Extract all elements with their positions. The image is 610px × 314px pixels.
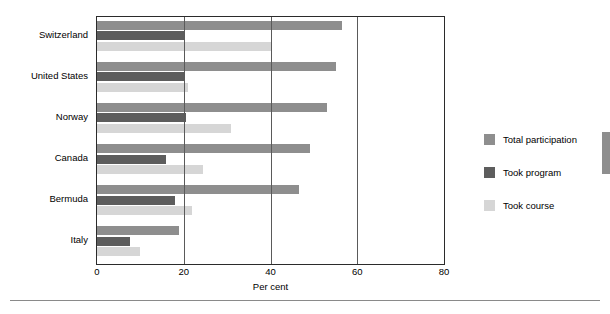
- legend-label: Total participation: [503, 134, 577, 145]
- bar-united-states-took-program: [97, 72, 184, 81]
- legend-item: Total participation: [484, 134, 599, 145]
- bar-norway-took-course: [97, 124, 231, 133]
- bar-united-states-total-participation: [97, 62, 336, 71]
- bar-italy-total-participation: [97, 226, 179, 235]
- bar-united-states-took-course: [97, 83, 188, 92]
- bar-bermuda-took-course: [97, 206, 192, 215]
- bar-bermuda-total-participation: [97, 185, 299, 194]
- plot-area: [96, 16, 445, 265]
- bar-norway-took-program: [97, 113, 186, 122]
- x-tick-label: 0: [94, 266, 99, 277]
- bar-switzerland-took-program: [97, 31, 184, 40]
- x-axis-ticks: 020406080: [96, 266, 445, 282]
- bottom-divider: [10, 300, 600, 301]
- gridline: [271, 17, 272, 264]
- category-axis-labels: SwitzerlandUnited StatesNorwayCanadaBerm…: [0, 16, 88, 265]
- right-edge-marker: [602, 132, 610, 174]
- bar-norway-total-participation: [97, 103, 327, 112]
- bar-canada-took-program: [97, 155, 166, 164]
- category-label-switzerland: Switzerland: [39, 29, 88, 40]
- gridline: [357, 17, 358, 264]
- category-label-united-states: United States: [31, 70, 88, 81]
- x-tick-label: 20: [178, 266, 189, 277]
- bar-italy-took-program: [97, 237, 130, 246]
- legend-item: Took program: [484, 167, 599, 178]
- x-tick-label: 40: [265, 266, 276, 277]
- category-label-italy: Italy: [71, 234, 88, 245]
- bar-canada-total-participation: [97, 144, 310, 153]
- bar-switzerland-total-participation: [97, 21, 342, 30]
- legend-swatch: [484, 167, 495, 178]
- x-axis-title: Per cent: [96, 281, 445, 292]
- category-label-norway: Norway: [56, 111, 88, 122]
- bar-italy-took-course: [97, 247, 140, 256]
- legend-swatch: [484, 200, 495, 211]
- bar-canada-took-course: [97, 165, 203, 174]
- chart-figure: SwitzerlandUnited StatesNorwayCanadaBerm…: [0, 0, 610, 314]
- category-label-canada: Canada: [55, 152, 88, 163]
- chart-legend: Total participationTook programTook cour…: [484, 134, 599, 233]
- legend-swatch: [484, 134, 495, 145]
- x-tick-label: 80: [439, 266, 450, 277]
- bar-bermuda-took-program: [97, 196, 175, 205]
- legend-item: Took course: [484, 200, 599, 211]
- gridline: [184, 17, 185, 264]
- x-tick-label: 60: [352, 266, 363, 277]
- category-label-bermuda: Bermuda: [49, 193, 88, 204]
- legend-label: Took program: [503, 167, 561, 178]
- legend-label: Took course: [503, 200, 554, 211]
